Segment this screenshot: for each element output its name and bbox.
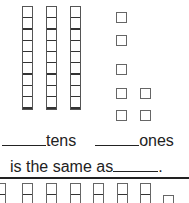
one-cube: [116, 110, 127, 121]
ten-rod: [22, 183, 33, 203]
one-cube: [116, 12, 127, 23]
ten-rod: [70, 6, 81, 110]
one-cube: [116, 35, 127, 46]
ten-rod: [93, 183, 104, 203]
section-divider: [0, 177, 189, 179]
period: .: [158, 158, 162, 175]
ones-label: ones: [139, 132, 174, 149]
ten-rod: [0, 183, 6, 203]
one-cube: [163, 195, 174, 203]
tens-answer-blank[interactable]: [2, 131, 46, 146]
equivalence-text: is the same as: [10, 158, 113, 175]
one-cube: [140, 110, 151, 121]
ten-rod: [140, 183, 151, 203]
ten-rod: [46, 6, 57, 110]
one-cube: [140, 88, 151, 99]
ten-rod: [22, 6, 33, 110]
ones-answer-blank[interactable]: [95, 131, 139, 146]
one-cube: [116, 64, 127, 75]
tens-label: tens: [46, 132, 76, 149]
ten-rod: [46, 183, 57, 203]
ten-rod: [70, 183, 81, 203]
number-answer-blank[interactable]: [113, 157, 158, 172]
ten-rod: [117, 183, 128, 203]
equivalence-line: is the same as.: [10, 157, 163, 176]
tens-ones-line: tens ones: [2, 131, 174, 150]
one-cube: [116, 88, 127, 99]
